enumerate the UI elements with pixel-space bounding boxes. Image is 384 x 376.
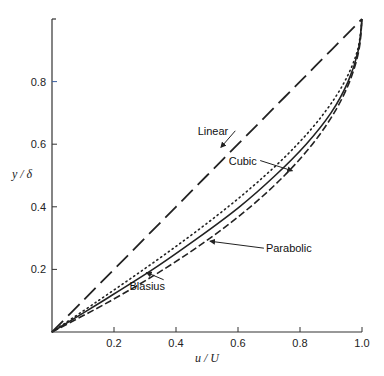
label-blasius: Blasius — [130, 280, 166, 292]
y-tick-label: 0.4 — [31, 201, 46, 213]
y-tick-label: 0.2 — [31, 263, 46, 275]
y-tick-label: 0.8 — [31, 76, 46, 88]
y-axis-label: y / δ — [11, 167, 33, 181]
series-linear-line — [52, 19, 362, 332]
x-tick-label: 0.4 — [168, 337, 183, 349]
x-tick-label: 0.8 — [292, 337, 307, 349]
label-linear: Linear — [198, 125, 229, 137]
plot-series — [52, 19, 362, 332]
x-axis-label: u / U — [195, 351, 220, 365]
boundary-layer-velocity-profile-chart: 0.20.40.60.81.00.20.40.60.8 LinearCubicP… — [0, 0, 384, 376]
label-cubic: Cubic — [229, 155, 258, 167]
x-tick-label: 0.2 — [106, 337, 121, 349]
axes: 0.20.40.60.81.00.20.40.60.8 — [31, 19, 370, 349]
label-cubic-arrow — [260, 161, 292, 171]
label-parabolic-arrow — [210, 241, 264, 248]
x-tick-label: 0.6 — [230, 337, 245, 349]
x-tick-label: 1.0 — [354, 337, 369, 349]
y-tick-label: 0.6 — [31, 138, 46, 150]
label-parabolic: Parabolic — [266, 242, 312, 254]
